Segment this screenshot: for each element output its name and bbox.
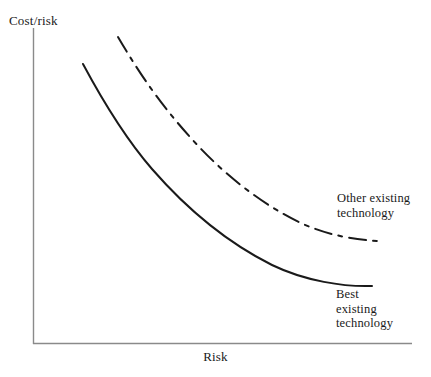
annotation-other-line-1: Other existing <box>337 191 431 206</box>
series-group <box>83 37 378 286</box>
annotation-best-line-3: technology <box>336 316 430 331</box>
annotation-other-line-2: technology <box>337 206 431 221</box>
annotation-best-line-1: Best <box>336 287 430 302</box>
chart-figure: Cost/risk Risk Other existing technology… <box>0 0 431 377</box>
annotation-best-line-2: existing <box>336 302 430 317</box>
annotation-best-existing-technology: Best existing technology <box>336 287 430 331</box>
y-axis-label: Cost/risk <box>9 13 58 28</box>
x-axis-label: Risk <box>0 349 431 364</box>
annotation-other-existing-technology: Other existing technology <box>337 191 431 220</box>
